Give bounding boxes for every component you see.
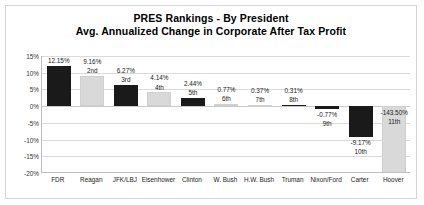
bar-data-label: 9.16%2nd bbox=[83, 57, 101, 76]
plot-area: 12.15%1st9.16%2nd6.27%3rd4.14%4th2.44%5t… bbox=[41, 56, 410, 173]
bar-slot: 2.44%5th bbox=[176, 56, 210, 172]
bar-rank-label: 4th bbox=[155, 84, 164, 91]
bar-slot: 0.77%6th bbox=[210, 56, 244, 172]
bar[interactable] bbox=[80, 76, 104, 107]
bar[interactable] bbox=[282, 105, 306, 106]
bar-slot: 4.14%4th bbox=[143, 56, 177, 172]
x-axis-tick-label: Nixon/Ford bbox=[309, 176, 343, 183]
y-axis-tick-label: -5% bbox=[8, 119, 39, 126]
bar-data-label: -143.50%11th bbox=[381, 108, 408, 127]
x-axis-tick-label: Truman bbox=[276, 176, 310, 183]
bar-value-label: -0.77% bbox=[317, 111, 337, 118]
bar-data-label: 0.77%6th bbox=[217, 85, 235, 104]
bar-slot: 0.37%7th bbox=[243, 56, 277, 172]
bar-value-label: -9.17% bbox=[351, 139, 371, 146]
x-axis-tick-label: W. Bush bbox=[209, 176, 243, 183]
bar-slot: 0.31%8th bbox=[277, 56, 311, 172]
bar[interactable] bbox=[315, 106, 339, 109]
y-axis-tick-label: -20% bbox=[8, 170, 39, 177]
y-axis-tick-label: 5% bbox=[8, 86, 39, 93]
bar-slot: 6.27%3rd bbox=[109, 56, 143, 172]
bar-value-label: 4.14% bbox=[150, 74, 168, 81]
bar-data-label: -9.17%10th bbox=[351, 138, 371, 157]
bar-slot: -0.77%9th bbox=[310, 56, 344, 172]
bar-rank-label: 9th bbox=[323, 120, 332, 127]
x-axis: FDRReaganJFK/LBJEisenhowerClintonW. Bush… bbox=[41, 176, 410, 190]
bar[interactable] bbox=[147, 92, 171, 106]
chart-title-block: PRES Rankings - By President Avg. Annual… bbox=[6, 12, 416, 38]
bar-value-label: 0.31% bbox=[285, 87, 303, 94]
x-axis-tick-label: H.W. Bush bbox=[242, 176, 276, 183]
bar-data-label: 0.37%7th bbox=[251, 86, 269, 105]
x-axis-tick-label: Clinton bbox=[175, 176, 209, 183]
bar-slot: -143.50%11th bbox=[377, 56, 410, 172]
bar-value-label: -143.50% bbox=[381, 109, 408, 116]
bar-data-label: -0.77%9th bbox=[317, 110, 337, 129]
y-axis-tick-label: -10% bbox=[8, 136, 39, 143]
x-axis-tick-label: Carter bbox=[343, 176, 377, 183]
bar-data-label: 6.27%3rd bbox=[117, 66, 135, 85]
bar[interactable] bbox=[114, 85, 138, 106]
bar[interactable] bbox=[248, 105, 272, 107]
bar-value-label: 12.15% bbox=[48, 57, 70, 64]
bar-value-label: 0.77% bbox=[217, 86, 235, 93]
bar-rank-label: 3rd bbox=[121, 76, 130, 83]
bar-value-label: 6.27% bbox=[117, 67, 135, 74]
bar-series: 12.15%1st9.16%2nd6.27%3rd4.14%4th2.44%5t… bbox=[42, 56, 410, 172]
bar-rank-label: 11th bbox=[388, 118, 400, 125]
bar-data-label: 4.14%4th bbox=[150, 73, 168, 92]
bar-value-label: 0.37% bbox=[251, 87, 269, 94]
bar-rank-label: 1st bbox=[55, 66, 64, 73]
x-axis-tick-label: Hoover bbox=[376, 176, 410, 183]
y-axis-tick-label: 0% bbox=[8, 103, 39, 110]
y-axis-tick-label: -15% bbox=[8, 153, 39, 160]
y-axis-tick-label: 15% bbox=[8, 53, 39, 60]
chart-subtitle: Avg. Annualized Change in Corporate Afte… bbox=[6, 25, 416, 38]
bar-data-label: 2.44%5th bbox=[184, 79, 202, 98]
bar-rank-label: 8th bbox=[289, 96, 298, 103]
bar-value-label: 9.16% bbox=[83, 58, 101, 65]
bar[interactable] bbox=[349, 106, 373, 137]
bar-slot: -9.17%10th bbox=[344, 56, 378, 172]
bar-value-label: 2.44% bbox=[184, 80, 202, 87]
bar-rank-label: 2nd bbox=[87, 67, 98, 74]
y-axis-tick-label: 10% bbox=[8, 69, 39, 76]
chart-title: PRES Rankings - By President bbox=[6, 12, 416, 25]
bar-slot: 9.16%2nd bbox=[76, 56, 110, 172]
chart-frame: PRES Rankings - By President Avg. Annual… bbox=[5, 5, 417, 199]
bar[interactable] bbox=[181, 98, 205, 106]
bar-rank-label: 5th bbox=[188, 89, 197, 96]
x-axis-tick-label: Reagan bbox=[75, 176, 109, 183]
x-axis-tick-label: FDR bbox=[41, 176, 75, 183]
x-axis-tick-label: JFK/LBJ bbox=[108, 176, 142, 183]
bar-slot: 12.15%1st bbox=[42, 56, 76, 172]
bar[interactable] bbox=[214, 104, 238, 107]
bar-data-label: 12.15%1st bbox=[48, 56, 70, 75]
bar-rank-label: 7th bbox=[256, 96, 265, 103]
bar-data-label: 0.31%8th bbox=[285, 86, 303, 105]
bar-rank-label: 6th bbox=[222, 95, 231, 102]
x-axis-tick-label: Eisenhower bbox=[142, 176, 176, 183]
bar-rank-label: 10th bbox=[354, 148, 366, 155]
